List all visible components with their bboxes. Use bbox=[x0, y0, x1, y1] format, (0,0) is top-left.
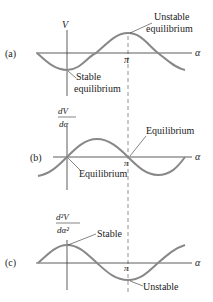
panel-b-eq-label-zero: Equilibrium bbox=[79, 168, 128, 179]
panel-c-unstable-label: Unstable bbox=[143, 281, 179, 292]
panel-a-stable-line1: Stable bbox=[76, 71, 102, 82]
diagram-canvas: (a) α V π Unstable equilibrium Stable eq… bbox=[0, 0, 213, 302]
panel-a-stable-line2: equilibrium bbox=[74, 83, 121, 94]
panel-b: (b) α dV dα π Equilibrium Equilibrium bbox=[30, 106, 201, 190]
panel-b-eq-leader-pi bbox=[130, 136, 146, 156]
panel-c-alpha-label: α bbox=[195, 257, 201, 268]
panel-c: (c) α d²V dα² π Stable Unstable bbox=[5, 212, 201, 292]
panel-a-alpha-label: α bbox=[195, 47, 201, 58]
panel-a-curve bbox=[37, 33, 185, 70]
panel-a: (a) α V π Unstable equilibrium Stable eq… bbox=[5, 11, 201, 96]
panel-b-ylabel-num: dV bbox=[58, 106, 70, 116]
panel-c-ylabel-num: d²V bbox=[56, 212, 70, 222]
panel-a-unstable-line1: Unstable bbox=[154, 11, 190, 22]
panel-c-tag: (c) bbox=[5, 257, 16, 269]
panel-c-unstable-leader bbox=[130, 281, 143, 286]
panel-a-ylabel: V bbox=[62, 19, 70, 30]
panel-a-unstable-line2: equilibrium bbox=[146, 23, 193, 34]
panel-b-ylabel-den: dα bbox=[59, 119, 69, 129]
panel-a-pi-label: π bbox=[124, 54, 130, 65]
panel-b-alpha-label: α bbox=[195, 151, 201, 162]
panel-c-stable-leader bbox=[68, 234, 96, 245]
panel-b-tag: (b) bbox=[30, 152, 42, 164]
panel-b-eq-label-pi: Equilibrium bbox=[146, 125, 195, 136]
panel-a-tag: (a) bbox=[5, 48, 16, 60]
panel-b-pi-label: π bbox=[124, 158, 129, 168]
panel-c-ylabel-den: dα² bbox=[57, 225, 69, 235]
panel-a-stable-leader bbox=[68, 71, 76, 78]
panel-c-pi-label: π bbox=[124, 263, 129, 273]
equilibrium-diagram: (a) α V π Unstable equilibrium Stable eq… bbox=[0, 0, 213, 302]
panel-c-stable-label: Stable bbox=[97, 228, 123, 239]
panel-c-curve bbox=[38, 245, 185, 280]
